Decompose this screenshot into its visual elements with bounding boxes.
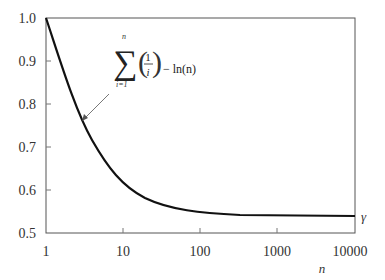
fraction-numerator: 1 (145, 51, 151, 63)
x-tick-label: 10 (116, 244, 130, 259)
x-axis-label: n (319, 261, 326, 276)
arrow-line (84, 94, 109, 119)
x-tick-label: 1000 (263, 244, 291, 259)
plot-frame (46, 18, 355, 233)
chart: 1.0 0.9 0.8 0.7 0.6 0.5 1 10 100 1000 10… (0, 0, 385, 280)
series-line (46, 18, 355, 216)
equation-tail: − ln(n) (163, 62, 196, 76)
equation-annotation: ∑ n i=1 ( 1 i ) − ln(n) (82, 32, 196, 121)
arrow-head-icon (82, 114, 88, 121)
y-tick-label: 0.9 (19, 54, 37, 69)
fraction-denominator: i (146, 66, 149, 78)
x-tick-label: 10000 (333, 244, 368, 259)
gamma-label: γ (361, 209, 367, 224)
y-tick-label: 0.5 (19, 226, 37, 241)
y-tick-label: 1.0 (19, 11, 37, 26)
x-tick-label: 100 (190, 244, 211, 259)
sum-upper-limit: n (122, 32, 126, 41)
sum-lower-limit: i=1 (116, 80, 128, 89)
svg-text:): ) (152, 45, 162, 79)
y-tick-label: 0.6 (19, 183, 37, 198)
x-axis: 1 10 100 1000 10000 n (43, 228, 368, 276)
y-tick-label: 0.8 (19, 97, 37, 112)
sigma-symbol: ∑ (113, 44, 137, 82)
x-tick-label: 1 (43, 244, 50, 259)
y-tick-label: 0.7 (19, 140, 37, 155)
